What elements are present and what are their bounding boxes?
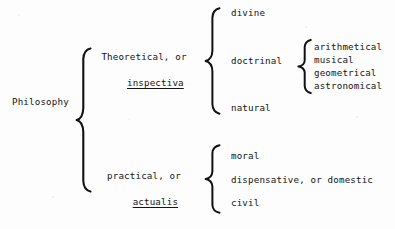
branch-practical-line2-text: actualis [133, 196, 178, 207]
leaf-geometrical: geometrical [314, 67, 377, 79]
branch-practical-line2: actualis [94, 184, 194, 220]
diagram-canvas: Philosophy Theoretical, or inspectiva pr… [0, 0, 395, 229]
brace-theoretical [203, 6, 223, 116]
scan-speckle [128, 118, 130, 120]
leaf-musical: musical [314, 54, 354, 66]
branch-theoretical-line2: inspectiva [94, 65, 194, 101]
leaf-natural: natural [231, 102, 271, 114]
leaf-divine: divine [231, 7, 265, 19]
branch-theoretical-line2-text: inspectiva [127, 77, 184, 88]
brace-practical [203, 143, 223, 215]
root-label-philosophy: Philosophy [12, 96, 69, 108]
leaf-civil: civil [231, 197, 259, 209]
brace-philosophy [74, 46, 94, 194]
branch-theoretical-line1: Theoretical, or [94, 51, 194, 63]
scan-speckle [18, 14, 20, 16]
scan-speckle [305, 26, 307, 28]
leaf-moral: moral [231, 150, 259, 162]
brace-doctrinal [296, 38, 314, 95]
scan-speckle [52, 196, 54, 198]
leaf-arithmetical: arithmetical [314, 41, 382, 53]
leaf-doctrinal: doctrinal [231, 55, 282, 67]
scan-speckle [356, 116, 358, 118]
branch-practical-line1: practical, or [94, 170, 194, 182]
leaf-dispensative: dispensative, or domestic [231, 174, 373, 186]
leaf-astronomical: astronomical [314, 80, 382, 92]
